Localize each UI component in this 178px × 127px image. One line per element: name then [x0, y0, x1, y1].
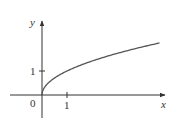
y-tick-label: 1 — [30, 65, 36, 77]
x-tick-label: 1 — [64, 99, 70, 111]
x-axis-label: x — [160, 98, 166, 110]
origin-label: 0 — [30, 97, 36, 109]
y-axis-label: y — [29, 16, 35, 28]
sqrt-curve — [42, 43, 160, 95]
chart: y x 0 1 1 — [0, 0, 178, 127]
